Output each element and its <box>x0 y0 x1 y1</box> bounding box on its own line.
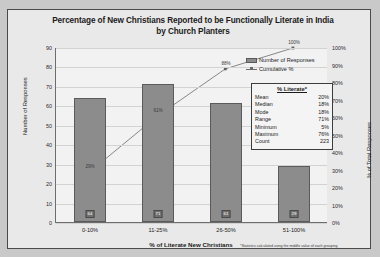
y-axis-right-tick: 10% <box>332 203 358 209</box>
statistics-table: % Literate* Mean20%Median18%Mode18%Range… <box>251 83 333 150</box>
y-axis-left-tick: 10 <box>30 201 52 207</box>
chart-footnote: *Statistics calculated using the middle … <box>240 244 372 248</box>
y-axis-right-tick: 60% <box>332 115 358 121</box>
statistics-row-label: Mean <box>255 94 269 101</box>
bar: 61 <box>210 103 243 222</box>
bar: 71 <box>142 84 175 222</box>
statistics-row: Mode18% <box>255 109 329 116</box>
statistics-row-value: 18% <box>318 109 329 116</box>
statistics-row-value: 20% <box>318 94 329 101</box>
chart-legend: Number of Responses Cumulative % <box>246 57 315 75</box>
bar-value-label: 71 <box>154 210 163 218</box>
cumulative-value-label: 29% <box>85 164 94 169</box>
bar-value-label: 64 <box>86 210 95 218</box>
gridline <box>56 223 327 224</box>
legend-item-line: Cumulative % <box>246 66 315 72</box>
y-axis-left-tick: 60 <box>30 103 52 109</box>
y-axis-right-tick: 20% <box>332 185 358 191</box>
statistics-row: Range71% <box>255 116 329 123</box>
statistics-row-label: Range <box>255 116 271 123</box>
statistics-row-label: Median <box>255 101 273 108</box>
legend-label-line: Cumulative % <box>259 66 294 72</box>
y-axis-right-tick: 50% <box>332 133 358 139</box>
statistics-row: Count223 <box>255 138 329 145</box>
bar-value-label: 29 <box>290 210 299 218</box>
bar: 29 <box>278 166 311 222</box>
chart-title: Percentage of New Christians Reported to… <box>48 16 338 37</box>
y-axis-right-tick: 40% <box>332 150 358 156</box>
x-axis-tick: 0-10% <box>82 227 98 233</box>
x-axis-tick: 26-50% <box>216 227 235 233</box>
y-axis-left-tick: 0 <box>30 220 52 226</box>
y-axis-left-title: Number of Responses <box>22 77 28 135</box>
line-swatch-icon <box>246 67 257 72</box>
y-axis-right-tick: 30% <box>332 168 358 174</box>
y-axis-left-tick: 30 <box>30 162 52 168</box>
statistics-row-value: 18% <box>318 101 329 108</box>
x-axis-tick: 51-100% <box>283 227 305 233</box>
statistics-row-value: 5% <box>321 124 329 131</box>
y-axis-right-tick: 0% <box>332 220 358 226</box>
y-axis-right-tick: 90% <box>332 63 358 69</box>
bar-swatch-icon <box>246 58 257 63</box>
cumulative-value-label: 88% <box>221 61 230 66</box>
y-axis-right-tick: 80% <box>332 80 358 86</box>
legend-label-bars: Number of Responses <box>259 57 315 63</box>
y-axis-left-tick: 40 <box>30 142 52 148</box>
statistics-row: Maximum76% <box>255 131 329 138</box>
statistics-row-value: 71% <box>318 116 329 123</box>
y-axis-left-tick: 70 <box>30 84 52 90</box>
gridline <box>56 48 327 49</box>
statistics-row-label: Maximum <box>255 131 278 138</box>
statistics-row: Mean20% <box>255 94 329 101</box>
chart-container: Percentage of New Christians Reported to… <box>7 9 371 249</box>
statistics-table-body: Mean20%Median18%Mode18%Range71%Minimum5%… <box>255 94 329 146</box>
y-axis-left-tick: 50 <box>30 123 52 129</box>
statistics-row-value: 223 <box>320 138 329 145</box>
statistics-table-title: % Literate* <box>255 86 329 92</box>
statistics-row-label: Minimum <box>255 124 277 131</box>
cumulative-value-label: 61% <box>153 108 162 113</box>
y-axis-right-tick: 100% <box>332 45 358 51</box>
x-axis-tick: 11-25% <box>149 227 168 233</box>
y-axis-left-tick: 80 <box>30 64 52 70</box>
statistics-row: Median18% <box>255 101 329 108</box>
y-axis-left-tick: 90 <box>30 45 52 51</box>
y-axis-right-tick: 70% <box>332 98 358 104</box>
bar: 64 <box>74 98 107 222</box>
y-axis-left-tick: 20 <box>30 181 52 187</box>
statistics-row-label: Mode <box>255 109 269 116</box>
statistics-row: Minimum5% <box>255 124 329 131</box>
statistics-row-value: 76% <box>318 131 329 138</box>
cumulative-value-label: 100% <box>288 40 300 45</box>
legend-item-bars: Number of Responses <box>246 57 315 63</box>
y-axis-right-title: % of Total Responses <box>366 122 372 178</box>
bar-value-label: 61 <box>222 210 231 218</box>
statistics-row-label: Count <box>255 138 269 145</box>
